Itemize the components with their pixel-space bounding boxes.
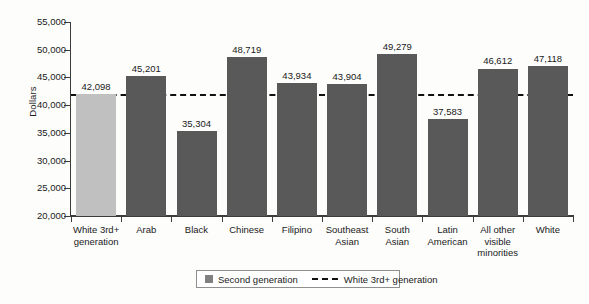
x-axis-category-line: American: [427, 236, 467, 247]
x-axis-tick-mark: [473, 216, 474, 222]
legend-swatch-icon: [205, 275, 213, 283]
x-axis-category-label: White: [514, 224, 582, 236]
x-axis-tick-mark: [171, 216, 172, 222]
x-axis-category-line: South: [385, 224, 410, 235]
y-axis-tick-label: 35,000: [20, 128, 66, 138]
y-axis-tick-label: 55,000: [20, 17, 66, 27]
x-axis-category-line: Asian: [335, 236, 359, 247]
x-axis-category-line: generation: [74, 236, 119, 247]
y-axis-tick-labels: 20,00025,00030,00035,00040,00045,00050,0…: [20, 0, 66, 304]
chart-legend: Second generation White 3rd+ generation: [196, 270, 400, 288]
x-axis-category-line: Chinese: [229, 224, 264, 235]
x-axis-tick-mark: [422, 216, 423, 222]
x-axis-tick-mark: [272, 216, 273, 222]
legend-label-white-3rd-plus-generation: White 3rd+ generation: [344, 274, 438, 285]
y-axis-tick-label: 50,000: [20, 45, 66, 55]
bar[interactable]: [126, 76, 166, 216]
x-axis-tick-mark: [222, 216, 223, 222]
x-axis-tick-mark: [372, 216, 373, 222]
x-axis-tick-mark: [523, 216, 524, 222]
x-axis-category-line: Asian: [385, 236, 409, 247]
x-axis-tick-mark: [322, 216, 323, 222]
bar[interactable]: [76, 94, 116, 216]
bar[interactable]: [277, 83, 317, 216]
bar-value-label: 45,201: [113, 63, 179, 74]
y-axis-tick-mark: [64, 77, 70, 78]
bar[interactable]: [377, 54, 417, 216]
y-axis-tick-label: 40,000: [20, 100, 66, 110]
bar-value-label: 43,904: [314, 71, 380, 82]
bar[interactable]: [478, 69, 518, 217]
bar[interactable]: [528, 66, 568, 216]
x-axis-category-line: visible: [484, 236, 510, 247]
bar-value-label: 48,719: [214, 44, 280, 55]
bar-value-label: 42,098: [63, 81, 129, 92]
bar[interactable]: [227, 57, 267, 216]
plot-area: 42,09845,20135,30448,71943,93443,90449,2…: [71, 22, 573, 216]
bar-value-label: 49,279: [364, 41, 430, 52]
y-axis-tick-mark: [64, 105, 70, 106]
x-axis-category-line: Southeast: [326, 224, 369, 235]
x-axis-category-line: All other: [480, 224, 515, 235]
bar[interactable]: [177, 131, 217, 216]
bar-value-label: 37,583: [414, 106, 480, 117]
y-axis-tick-mark: [64, 216, 70, 217]
bar[interactable]: [428, 119, 468, 216]
x-axis-tick-mark: [71, 216, 72, 222]
bar[interactable]: [327, 84, 367, 216]
y-axis-tick-label: 30,000: [20, 156, 66, 166]
y-axis-tick-label: 45,000: [20, 72, 66, 82]
bar-value-label: 47,118: [515, 53, 581, 64]
bar-value-label: 35,304: [163, 118, 229, 129]
legend-item-white-3rd-plus-generation[interactable]: White 3rd+ generation: [312, 274, 438, 285]
legend-item-second-generation[interactable]: Second generation: [205, 274, 298, 285]
x-axis-category-line: Black: [185, 224, 208, 235]
y-axis-tick-mark: [64, 133, 70, 134]
y-axis-tick-mark: [64, 50, 70, 51]
x-axis-category-line: White: [536, 224, 560, 235]
x-axis-tick-mark: [573, 216, 574, 222]
x-axis-category-line: minorities: [477, 247, 518, 258]
x-axis-tick-mark: [121, 216, 122, 222]
legend-label-second-generation: Second generation: [218, 274, 298, 285]
y-axis-tick-label: 20,000: [20, 211, 66, 221]
y-axis-tick-mark: [64, 188, 70, 189]
x-axis-category-line: Filipino: [282, 224, 312, 235]
y-axis-tick-mark: [64, 22, 70, 23]
y-axis-tick-mark: [64, 161, 70, 162]
legend-dashed-line-icon: [312, 278, 338, 280]
bar-chart: Dollars 20,00025,00030,00035,00040,00045…: [0, 0, 589, 304]
y-axis-tick-label: 25,000: [20, 183, 66, 193]
x-axis-category-line: Arab: [136, 224, 156, 235]
x-axis-category-line: Latin: [437, 224, 458, 235]
